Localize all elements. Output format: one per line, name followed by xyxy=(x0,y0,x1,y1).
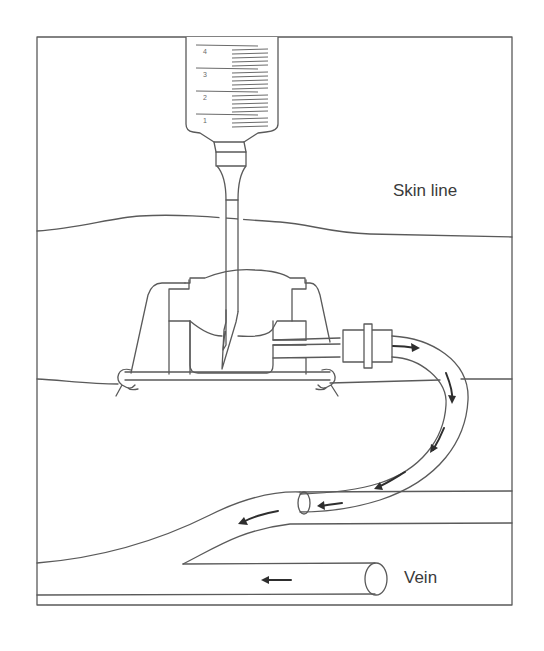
flow-arrows xyxy=(238,343,456,584)
port-infusion-diagram: 4 3 2 1 Skin line Vein xyxy=(0,0,544,651)
skin-line-upper xyxy=(37,215,512,237)
implanted-port xyxy=(116,270,340,396)
flow-arrow-1 xyxy=(393,343,420,352)
syringe-scale-2: 2 xyxy=(203,94,207,101)
syringe-scale-4: 4 xyxy=(203,48,207,55)
catheter xyxy=(298,336,468,514)
tissue-line-right xyxy=(330,380,440,383)
flow-arrow-4 xyxy=(374,472,405,490)
syringe xyxy=(186,37,278,369)
flow-arrow-2 xyxy=(446,373,456,404)
vein-open-end xyxy=(365,563,387,595)
skin-line-label: Skin line xyxy=(393,181,457,201)
flow-arrow-6 xyxy=(238,511,278,525)
diagram-canvas xyxy=(0,0,544,651)
syringe-scale-3: 3 xyxy=(203,71,207,78)
syringe-scale-1: 1 xyxy=(203,117,207,124)
flow-arrow-5 xyxy=(317,501,342,510)
catheter-tip xyxy=(298,492,310,514)
catheter-connector xyxy=(343,324,392,368)
flow-arrow-3 xyxy=(430,428,444,453)
tissue-line xyxy=(37,379,118,384)
vein-label: Vein xyxy=(404,568,437,588)
flow-arrow-7 xyxy=(261,576,291,584)
